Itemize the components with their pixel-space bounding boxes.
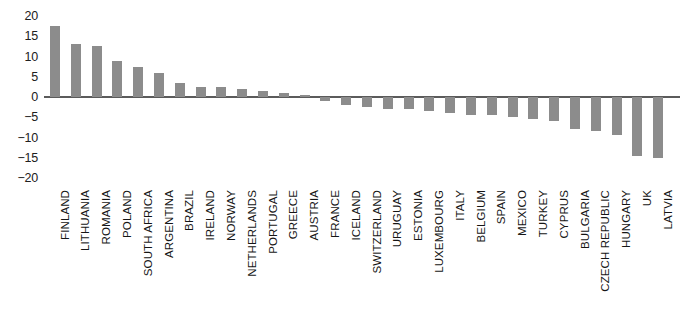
bar	[71, 44, 81, 97]
x-axis-tick-label: BULGARIA	[580, 190, 590, 249]
bar	[300, 95, 310, 97]
x-axis-tick-label: POLAND	[122, 190, 132, 238]
x-axis-tick-label: AUSTRIA	[309, 190, 319, 241]
bar	[175, 83, 185, 97]
bar	[92, 46, 102, 97]
bar	[612, 97, 622, 135]
bar	[591, 97, 601, 131]
y-axis-tick-label: 10	[24, 50, 38, 63]
bar	[133, 67, 143, 97]
bar	[549, 97, 559, 121]
bar	[508, 97, 518, 117]
bar	[424, 97, 434, 111]
bar	[404, 97, 414, 109]
x-axis: FINLANDLITHUANIAROMANIAPOLANDSOUTH AFRIC…	[44, 190, 680, 319]
x-axis-tick-label: BELGIUM	[476, 190, 486, 242]
x-axis-tick-label: SWITZERLAND	[372, 190, 382, 274]
y-axis-tick-label: 5	[31, 71, 38, 84]
y-axis-tick-label: −15	[17, 152, 38, 165]
x-axis-tick-label: MEXICO	[517, 190, 527, 236]
x-axis-tick-label: UK	[642, 190, 652, 206]
bar	[258, 91, 268, 97]
bar	[362, 97, 372, 107]
bar	[196, 87, 206, 97]
y-axis-tick-label: −10	[17, 131, 38, 144]
x-axis-tick-label: FINLAND	[60, 190, 70, 240]
x-axis-tick-label: ROMANIA	[101, 190, 111, 244]
y-axis-tick-label: 20	[24, 10, 38, 23]
x-axis-tick-label: NORWAY	[226, 190, 236, 241]
y-axis-tick-label: 15	[24, 30, 38, 43]
x-axis-tick-label: GREECE	[288, 190, 298, 239]
y-axis-tick-label: −20	[17, 172, 38, 185]
x-axis-tick-label: ESTONIA	[413, 190, 423, 241]
bar	[632, 97, 642, 156]
bar	[383, 97, 393, 109]
bar	[154, 73, 164, 97]
x-axis-tick-label: ARGENTINA	[164, 190, 174, 258]
y-axis-tick-label: −5	[24, 111, 38, 124]
x-axis-tick-label: LITHUANIA	[80, 190, 90, 251]
x-axis-tick-label: LATVIA	[663, 190, 673, 229]
plot-area	[44, 0, 680, 190]
bar	[487, 97, 497, 115]
x-axis-tick-label: URUGUAY	[392, 190, 402, 247]
bar	[466, 97, 476, 115]
bar	[341, 97, 351, 105]
x-axis-tick-label: ITALY	[455, 190, 465, 221]
x-axis-tick-label: SOUTH AFRICA	[143, 190, 153, 276]
bar	[237, 89, 247, 97]
x-axis-tick-label: NETHERLANDS	[247, 190, 257, 277]
x-axis-tick-label: FRANCE	[330, 190, 340, 238]
bar	[112, 61, 122, 97]
x-axis-tick-label: BRAZIL	[184, 190, 194, 231]
bar	[320, 97, 330, 101]
x-axis-tick-label: IRELAND	[205, 190, 215, 241]
bar	[50, 26, 60, 97]
x-axis-tick-label: HUNGARY	[621, 190, 631, 248]
bar	[216, 87, 226, 97]
x-axis-tick-label: LUXEMBOURG	[434, 190, 444, 273]
y-axis-tick-label: 0	[31, 91, 38, 104]
x-axis-tick-label: ICELAND	[351, 190, 361, 241]
bar-chart: 20151050−5−10−15−20 FINLANDLITHUANIAROMA…	[0, 0, 684, 319]
bar	[279, 93, 289, 97]
x-axis-tick-label: SPAIN	[496, 190, 506, 224]
x-axis-tick-label: TURKEY	[538, 190, 548, 237]
x-axis-tick-label: PORTUGAL	[268, 190, 278, 254]
bar	[528, 97, 538, 119]
bar	[445, 97, 455, 113]
y-axis: 20151050−5−10−15−20	[0, 0, 38, 319]
x-axis-tick-label: CYPRUS	[559, 190, 569, 239]
x-axis-tick-label: CZECH REPUBLIC	[600, 190, 610, 292]
bar	[570, 97, 580, 129]
bar	[653, 97, 663, 158]
